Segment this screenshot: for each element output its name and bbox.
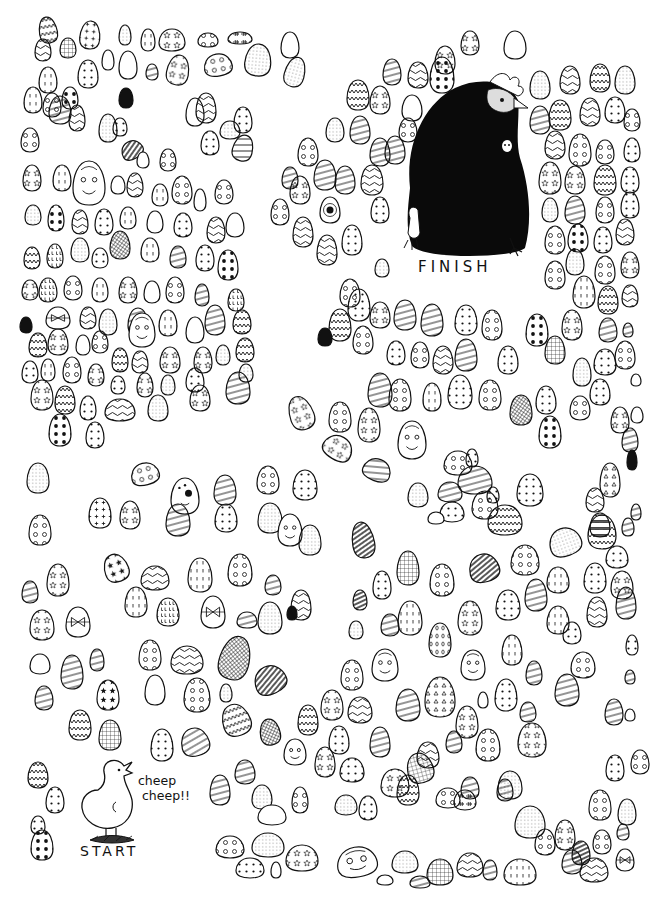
egg — [488, 505, 522, 535]
egg — [196, 93, 216, 123]
egg — [24, 247, 40, 269]
egg — [314, 160, 336, 190]
egg — [446, 731, 462, 753]
egg — [563, 622, 581, 644]
egg — [370, 727, 390, 757]
egg — [571, 652, 595, 678]
egg — [621, 192, 639, 218]
egg — [100, 551, 132, 586]
egg — [397, 775, 419, 805]
egg — [372, 649, 398, 681]
egg — [170, 246, 186, 268]
egg — [562, 850, 582, 874]
egg — [214, 475, 236, 505]
egg — [282, 167, 298, 189]
egg — [188, 558, 212, 592]
egg — [284, 393, 318, 433]
egg — [47, 564, 69, 596]
egg — [111, 176, 125, 194]
egg — [511, 545, 539, 575]
egg — [22, 280, 38, 300]
egg — [461, 650, 485, 680]
egg — [76, 335, 90, 355]
egg — [623, 323, 633, 337]
start-label: START — [80, 843, 138, 859]
egg — [152, 184, 168, 206]
egg — [321, 690, 343, 720]
egg — [458, 466, 492, 494]
egg — [299, 525, 321, 555]
egg — [61, 655, 83, 689]
egg — [570, 396, 590, 420]
egg — [194, 189, 206, 211]
egg — [616, 849, 634, 871]
egg — [562, 310, 582, 340]
egg — [594, 227, 612, 253]
egg — [421, 304, 443, 336]
egg — [218, 250, 238, 280]
egg — [594, 165, 616, 195]
egg — [478, 692, 488, 708]
egg — [265, 575, 281, 595]
egg — [89, 498, 111, 528]
egg — [565, 196, 585, 224]
egg — [21, 128, 39, 152]
egg — [593, 830, 611, 854]
egg — [402, 95, 422, 121]
egg — [371, 197, 389, 223]
egg — [530, 106, 550, 134]
egg — [329, 402, 351, 432]
egg — [631, 750, 649, 774]
egg — [319, 430, 357, 466]
egg — [20, 317, 32, 333]
egg — [315, 747, 335, 777]
egg — [31, 816, 45, 834]
egg — [596, 140, 614, 164]
egg — [461, 31, 479, 55]
egg — [448, 375, 472, 409]
egg — [53, 165, 71, 191]
egg — [482, 310, 502, 340]
egg — [396, 689, 420, 721]
egg — [320, 197, 340, 223]
egg — [383, 59, 401, 85]
egg — [502, 635, 522, 665]
egg — [594, 349, 616, 375]
egg — [627, 450, 637, 470]
egg — [28, 762, 48, 788]
egg — [526, 661, 542, 685]
egg — [335, 166, 355, 194]
egg — [92, 248, 108, 268]
egg — [119, 51, 137, 79]
egg — [353, 326, 373, 354]
egg — [215, 180, 233, 204]
egg — [605, 699, 623, 725]
egg — [147, 211, 163, 233]
egg — [370, 138, 390, 166]
egg — [226, 372, 250, 404]
egg — [626, 635, 638, 655]
egg — [159, 29, 185, 51]
egg — [102, 50, 114, 70]
egg — [381, 614, 399, 636]
eggs-layer — [20, 16, 649, 888]
egg — [555, 674, 579, 706]
egg — [353, 590, 367, 610]
egg — [97, 680, 119, 710]
egg — [349, 621, 363, 639]
egg — [479, 380, 501, 410]
egg — [41, 359, 55, 381]
egg — [160, 149, 176, 171]
egg — [226, 213, 244, 237]
egg — [137, 373, 153, 397]
egg — [80, 396, 96, 420]
egg — [433, 346, 453, 374]
egg — [589, 790, 611, 820]
egg — [110, 231, 130, 259]
egg — [127, 173, 143, 197]
egg — [370, 86, 390, 114]
egg — [95, 209, 113, 235]
egg — [46, 787, 64, 813]
egg — [39, 278, 57, 302]
egg — [342, 225, 362, 255]
